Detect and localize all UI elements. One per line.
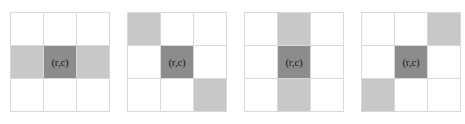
- grid-cell: [77, 79, 109, 111]
- grid-cell: [44, 13, 76, 45]
- grid-cell: [362, 46, 394, 78]
- grid-cell: [278, 13, 310, 45]
- grid-cell: [245, 13, 277, 45]
- grid-main-diagonal-neighbors: (r,c): [127, 12, 227, 112]
- grid-cell: [311, 79, 343, 111]
- grid-cell: [128, 79, 160, 111]
- grid-cell: [77, 46, 109, 78]
- grid-cell: [362, 13, 394, 45]
- grid-cell: [77, 13, 109, 45]
- grid-cell: [128, 46, 160, 78]
- grid-cell: [278, 79, 310, 111]
- grid-cell: [311, 13, 343, 45]
- grid-anti-diagonal-neighbors: (r,c): [361, 12, 461, 112]
- grid-cell: [311, 46, 343, 78]
- grid-cell: [11, 46, 43, 78]
- grid-cell: [362, 79, 394, 111]
- grid-cell: [194, 46, 226, 78]
- neighborhood-grids-figure: (r,c)(r,c)(r,c)(r,c): [0, 0, 465, 124]
- grid-cell-center: (r,c): [278, 46, 310, 78]
- grid-cell: [128, 13, 160, 45]
- grid-cell: [428, 46, 460, 78]
- grid-cell: [194, 13, 226, 45]
- grid-cell-center: (r,c): [395, 46, 427, 78]
- grid-cell: [11, 79, 43, 111]
- grid-cell: [395, 79, 427, 111]
- cell-label: (r,c): [168, 57, 185, 68]
- grid-cell: [194, 79, 226, 111]
- grid-cell: [395, 13, 427, 45]
- grid-cell: [428, 13, 460, 45]
- grid-row: (r,c)(r,c)(r,c)(r,c): [10, 12, 461, 112]
- grid-cell: [245, 79, 277, 111]
- grid-cell: [428, 79, 460, 111]
- grid-cell: [44, 79, 76, 111]
- grid-cell: [161, 13, 193, 45]
- cell-label: (r,c): [51, 57, 68, 68]
- grid-cell: [245, 46, 277, 78]
- cell-label: (r,c): [402, 57, 419, 68]
- cell-label: (r,c): [285, 57, 302, 68]
- grid-cell-center: (r,c): [161, 46, 193, 78]
- grid-cell-center: (r,c): [44, 46, 76, 78]
- grid-cell: [161, 79, 193, 111]
- grid-horizontal-neighbors: (r,c): [10, 12, 110, 112]
- grid-vertical-neighbors: (r,c): [244, 12, 344, 112]
- grid-cell: [11, 13, 43, 45]
